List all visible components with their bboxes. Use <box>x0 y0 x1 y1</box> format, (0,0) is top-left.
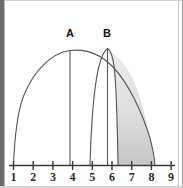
shaded-tail-region <box>108 49 156 165</box>
x-axis-label-9: 9 <box>164 171 178 184</box>
narrow-curve-peak-b <box>90 49 118 166</box>
peak-label-a: A <box>62 27 78 39</box>
x-axis-label-2: 2 <box>26 171 40 184</box>
plot-area <box>0 0 183 188</box>
peak-label-b: B <box>99 27 115 39</box>
x-axis-label-1: 1 <box>7 171 21 184</box>
x-axis-label-7: 7 <box>125 171 139 184</box>
x-axis-label-5: 5 <box>85 171 99 184</box>
figure-container: A B 1 2 3 4 5 6 7 8 9 <box>0 0 183 188</box>
x-axis-label-6: 6 <box>105 171 119 184</box>
x-axis-label-4: 4 <box>66 171 80 184</box>
x-axis-label-3: 3 <box>46 171 60 184</box>
x-axis-label-8: 8 <box>144 171 158 184</box>
